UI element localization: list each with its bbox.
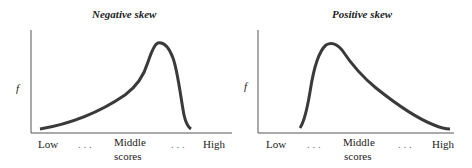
y-axis-label: f xyxy=(16,82,19,94)
x-tick-dots: . . . xyxy=(398,138,412,150)
negative-skew-panel: Negative skew f Low . . . Middle . . . H… xyxy=(0,0,236,168)
x-tick-high: High xyxy=(432,138,454,150)
x-tick-low: Low xyxy=(266,138,286,150)
x-axis-label: scores xyxy=(344,150,372,162)
positive-skew-panel: Positive skew f Low . . . Middle . . . H… xyxy=(236,0,472,168)
x-tick-low: Low xyxy=(38,138,58,150)
x-tick-middle: Middle xyxy=(343,136,375,148)
y-axis-label: f xyxy=(244,80,247,92)
x-tick-dots: . . . xyxy=(171,138,185,150)
x-tick-dots: . . . xyxy=(78,138,92,150)
x-tick-dots: . . . xyxy=(307,138,321,150)
x-tick-high: High xyxy=(203,138,225,150)
x-tick-middle: Middle xyxy=(114,136,146,148)
x-axis-label: scores xyxy=(114,150,142,162)
